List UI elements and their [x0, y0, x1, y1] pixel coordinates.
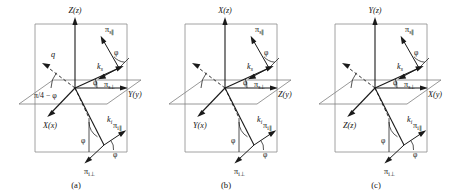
panel-a: Z(z) Y(y) X(x) ks ki q π/4 − φ — [1, 0, 151, 196]
horizontal-plane — [319, 80, 441, 104]
pol-s-parallel-arrowhead — [401, 36, 407, 44]
pol-i-parallel-label: πi∥ — [263, 121, 272, 132]
panel-caption: (a) — [71, 180, 81, 190]
ks-label: ks — [397, 62, 403, 72]
ki-label: ki — [257, 115, 263, 125]
q-arrowhead — [342, 63, 350, 69]
q-dashed-line — [346, 66, 375, 88]
panel-caption: (b) — [221, 180, 231, 190]
axis-left-arrowhead — [347, 110, 355, 117]
axis-left-arrowhead — [197, 110, 205, 117]
axis-vertical-arrowhead — [372, 17, 377, 25]
pol-i-perp-label: πi⊥ — [84, 167, 95, 177]
angle-label-pol-s: φ — [114, 48, 119, 57]
pol-i-parallel-label: πi∥ — [113, 121, 122, 132]
ks-arrowhead — [415, 66, 423, 72]
axis-left-label: Y(x) — [193, 121, 207, 130]
pol-i-perp-line — [238, 145, 254, 160]
q-arrowhead — [192, 63, 200, 69]
pol-s-perp-label: πs⊥ — [404, 80, 415, 90]
angle-label-pol-i: φ — [263, 150, 268, 159]
pol-i-parallel-arrowhead — [418, 130, 426, 137]
incident-ray-ki — [225, 88, 254, 145]
axis-left-arrowhead — [47, 110, 55, 117]
pol-s-perp-label: πs⊥ — [254, 80, 265, 90]
ks-label: ks — [97, 62, 103, 72]
axis-right-label: Y(y) — [128, 90, 142, 99]
angle-label-pol-i: φ — [113, 150, 118, 159]
angle-label-ks: φ — [243, 78, 248, 87]
angle-arc-pol-i — [111, 141, 114, 151]
incident-ray-ki — [375, 88, 404, 145]
axis-right-label: Z(y) — [278, 90, 292, 99]
pol-i-perp-label: πi⊥ — [384, 167, 395, 177]
panel-c: Y(z) X(y) Z(z) ks ki φ πs∥ πs⊥ — [301, 0, 451, 196]
angle-label-ks: φ — [93, 78, 98, 87]
ks-arrowhead — [115, 66, 123, 72]
pol-s-parallel-arrowhead — [251, 36, 257, 44]
axis-left-label: Z(z) — [343, 121, 356, 130]
axis-vertical-label: Z(z) — [68, 6, 81, 15]
pol-i-perp-label: πi⊥ — [234, 167, 245, 177]
pol-i-parallel-line — [254, 133, 272, 145]
angle-arc-pol-i — [411, 141, 414, 151]
pol-i-parallel-line — [404, 133, 422, 145]
pol-s-parallel-label: πs∥ — [405, 25, 414, 36]
angle-label-pol-i: φ — [413, 150, 418, 159]
axis-left-line — [201, 88, 225, 113]
pi4-angle-label: π/4 − φ — [34, 91, 57, 100]
tick-ks-tip — [419, 58, 429, 68]
tick-ks-tip — [119, 58, 129, 68]
pol-i-parallel-arrowhead — [268, 130, 276, 137]
ks-arrowhead — [265, 66, 273, 72]
ks-label: ks — [247, 62, 253, 72]
q-arrowhead — [42, 63, 50, 69]
axis-vertical-label: X(z) — [217, 6, 232, 15]
axis-vertical-arrowhead — [72, 17, 77, 25]
axis-left-line — [351, 88, 375, 113]
axis-left-label: X(x) — [42, 121, 57, 130]
axis-vertical-arrowhead — [222, 17, 227, 25]
ki-label: ki — [107, 115, 113, 125]
q-label: q — [51, 50, 55, 59]
pol-s-parallel-label: πs∥ — [105, 25, 114, 36]
horizontal-plane — [169, 80, 291, 104]
axis-right-label: X(y) — [427, 90, 442, 99]
panel-caption: (c) — [371, 180, 381, 190]
angle-label-ki: φ — [81, 136, 86, 145]
q-dashed-line — [46, 66, 75, 88]
pol-s-parallel-label: πs∥ — [255, 25, 264, 36]
pol-i-parallel-label: πi∥ — [413, 121, 422, 132]
angle-label-pol-s: φ — [264, 48, 269, 57]
panel-b: X(z) Z(y) Y(x) ks ki φ πs∥ πs⊥ — [151, 0, 301, 196]
axis-vertical-label: Y(z) — [368, 6, 381, 15]
angle-label-ki: φ — [381, 136, 386, 145]
incident-ray-ki — [75, 88, 104, 145]
pol-i-perp-line — [388, 145, 404, 160]
tick-ks-tip — [269, 58, 279, 68]
q-dashed-line — [196, 66, 225, 88]
angle-arc-pol-i — [261, 141, 264, 151]
pol-i-parallel-line — [104, 133, 122, 145]
angle-label-pol-s: φ — [414, 48, 419, 57]
scattering-geometry-figure: Z(z) Y(y) X(x) ks ki q π/4 − φ — [0, 0, 451, 196]
pol-s-perp-label: πs⊥ — [104, 80, 115, 90]
pol-i-perp-line — [88, 145, 104, 160]
angle-label-ks: φ — [393, 78, 398, 87]
pol-i-parallel-arrowhead — [118, 130, 126, 137]
pol-s-parallel-arrowhead — [101, 36, 107, 44]
ki-label: ki — [407, 115, 413, 125]
angle-label-ki: φ — [231, 136, 236, 145]
